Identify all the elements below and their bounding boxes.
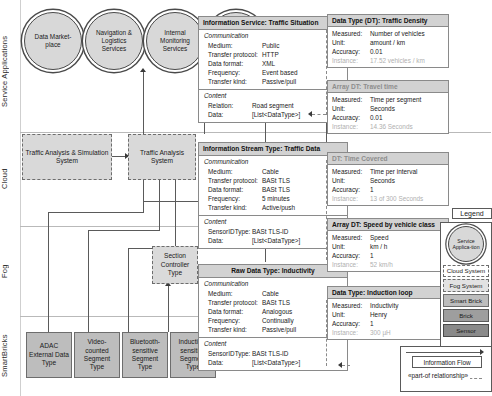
fog-system-label: Section Controller Type — [153, 252, 197, 277]
datatype-body: Measured:Number of vehicles Unit:amount … — [328, 27, 448, 67]
datatype-key: Measured: — [332, 233, 370, 242]
connector-line — [88, 230, 160, 231]
smartbrick-bluetooth-sensitive-segment-type[interactable]: Bluetooth-sensitive Segment Type — [122, 332, 168, 378]
arrow-head — [480, 349, 484, 355]
service-app-internal-monitoring[interactable]: Internal Monitoring Services — [146, 12, 204, 70]
spec-value: BASt TLS-ID — [252, 349, 342, 358]
service-app-label: Internal Monitoring Services — [147, 29, 203, 54]
datatype-row: Measured:Number of vehicles — [332, 29, 444, 38]
smartbrick-adac-external-data-type[interactable]: ADAC External Data Type — [26, 332, 72, 378]
card-communication-section: Communication Medium:Public Transfer pro… — [199, 30, 347, 89]
datatype-value: amount / km — [370, 38, 444, 47]
datatype-row: Accuracy:1 — [332, 251, 444, 260]
legend-brick: Brick — [443, 309, 489, 321]
spec-row: Relation:Road segment — [204, 101, 342, 110]
spec-row: Data:[List<DataType>] — [204, 358, 342, 367]
spec-key: Transfer kind: — [208, 203, 262, 212]
datatype-key: Unit: — [332, 310, 370, 319]
spec-row: Frequency:Continually — [204, 316, 342, 325]
datatype-time-covered[interactable]: DT: Time Covered Measured:Time per inter… — [327, 152, 449, 206]
legend-service-application: Service Applica-tion — [448, 226, 484, 262]
spec-row: Transfer kind:Active/push — [204, 203, 342, 212]
datatype-key: Unit: — [332, 104, 370, 113]
datatype-row: Measured:Speed — [332, 233, 444, 242]
spec-row: Transfer kind:Passive/pull — [204, 325, 342, 334]
datatype-value: Time per interval — [370, 167, 444, 176]
legend-sensor: Sensor — [443, 324, 489, 336]
datatype-value: 0.01 — [370, 47, 444, 56]
datatype-value: Henry — [370, 310, 444, 319]
legend-fog-system: Fog System — [443, 279, 489, 291]
spec-key: Data format: — [208, 59, 262, 68]
spec-key: Data: — [208, 110, 252, 119]
datatype-key: Instance: — [332, 260, 370, 269]
smartbrick-label: Bluetooth-sensitive Segment Type — [123, 338, 167, 372]
spec-key: Medium: — [208, 41, 262, 50]
datatype-induction-loop[interactable]: Data Type: Induction loop Measured:Induc… — [327, 286, 449, 340]
datatype-travel-time[interactable]: Array DT: Travel time Measured:Time per … — [327, 80, 449, 134]
cloud-traffic-analysis-system[interactable]: Traffic Analysis System — [128, 134, 196, 180]
spec-row: Transfer protocol:HTTP — [204, 50, 342, 59]
spec-row: Medium:Public — [204, 41, 342, 50]
datatype-value: 0.01 — [370, 113, 444, 122]
datatype-key: Accuracy: — [332, 319, 370, 328]
cloud-traffic-analysis-simulation-system[interactable]: Traffic Analysis & Simulation System — [22, 134, 112, 180]
datatype-traffic-density[interactable]: Data Type (DT): Traffic Density Measured… — [327, 14, 449, 68]
datatype-row: Unit:Seconds — [332, 104, 444, 113]
spec-key: Data format: — [208, 185, 262, 194]
spec-key: Frequency: — [208, 316, 262, 325]
section-heading: Communication — [204, 32, 342, 39]
datatype-key: Unit: — [332, 242, 370, 251]
spec-row: Frequency:5 minutes — [204, 194, 342, 203]
datatype-row: Accuracy:1 — [332, 319, 444, 328]
datatype-row: Measured:Time per interval — [332, 167, 444, 176]
smartbrick-video-counted-segment-type[interactable]: Video-counted Segment Type — [74, 332, 120, 378]
datatype-key: Measured: — [332, 167, 370, 176]
datatype-value: km / h — [370, 242, 444, 251]
datatype-instance-row: Instance:300 µH — [332, 328, 444, 337]
datatype-value: Number of vehicles — [370, 29, 444, 38]
spec-key: Transfer protocol: — [208, 50, 262, 59]
datatype-value: 300 µH — [370, 328, 444, 337]
datatype-key: Accuracy: — [332, 185, 370, 194]
datatype-instance-row: Instance:17.52 vehicles / km — [332, 56, 444, 65]
datatype-key: Accuracy: — [332, 251, 370, 260]
service-app-label: Data Market-place — [25, 33, 81, 49]
datatype-speed-by-vehicle-class[interactable]: Array DT: Speed by vehicle class Measure… — [327, 218, 449, 272]
datatype-row: Measured:Inductivity — [332, 301, 444, 310]
spec-row: Data format:BASt TLS — [204, 185, 342, 194]
datatype-title: Array DT: Travel time — [328, 81, 448, 93]
datatype-value: 1 — [370, 185, 444, 194]
datatype-key: Accuracy: — [332, 47, 370, 56]
fog-section-controller-type[interactable]: Section Controller Type — [152, 246, 198, 284]
datatype-key: Unit: — [332, 176, 370, 185]
spec-key: Relation: — [208, 101, 252, 110]
datatype-row: Accuracy:1 — [332, 185, 444, 194]
legend-item-label: Smart Brick — [450, 297, 482, 304]
datatype-value: 1 — [370, 251, 444, 260]
connector-line — [128, 248, 129, 332]
spec-key: Transfer protocol: — [208, 298, 262, 307]
datatype-key: Unit: — [332, 38, 370, 47]
service-app-data-marketplace[interactable]: Data Market-place — [24, 12, 82, 70]
datatype-title: Data Type: Induction loop — [328, 287, 448, 299]
card-content-section: Content SensorIDType:BASt TLS-ID Data:[L… — [199, 215, 347, 248]
datatype-instance-row: Instance:14.36 Seconds — [332, 122, 444, 131]
datatype-key: Measured: — [332, 95, 370, 104]
service-app-navigation-logistics[interactable]: Navigation & Logistics Services — [85, 12, 143, 70]
card-title: Information Service: Traffic Situation — [199, 17, 347, 30]
section-heading: Content — [204, 218, 342, 225]
spec-row: SensorIDType:BASt TLS-ID — [204, 349, 342, 358]
spec-row: Medium:Cable — [204, 167, 342, 176]
spec-key: Transfer kind: — [208, 325, 262, 334]
spec-row: Frequency:Event based — [204, 68, 342, 77]
datatype-body: Measured:Inductivity Unit:Henry Accuracy… — [328, 299, 448, 339]
smartbrick-label: Video-counted Segment Type — [75, 338, 119, 372]
lane-label-smartbricks: SmartBricks — [0, 318, 14, 394]
connector-line — [88, 230, 89, 332]
connector-line — [48, 212, 144, 213]
section-heading: Communication — [204, 158, 342, 165]
datatype-key: Instance: — [332, 56, 370, 65]
service-app-label: Navigation & Logistics Services — [86, 29, 142, 54]
datatype-row: Unit:Seconds — [332, 176, 444, 185]
